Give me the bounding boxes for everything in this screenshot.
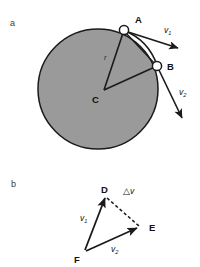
physics-figure: a r v1 v2 A B C b: [0, 0, 200, 267]
point-label-f: F: [74, 254, 80, 265]
point-label-a: A: [135, 14, 142, 25]
disk-shape: [38, 29, 158, 149]
panel-b-label: b: [11, 179, 16, 189]
delta-v-label: △v: [123, 186, 135, 196]
panel-a-label: a: [10, 18, 15, 28]
point-label-c: C: [92, 94, 99, 105]
point-label-e: E: [149, 222, 155, 233]
point-label-d: D: [101, 184, 108, 195]
point-label-b: B: [167, 61, 174, 72]
point-marker-b: [152, 61, 161, 70]
point-marker-a: [119, 25, 128, 34]
